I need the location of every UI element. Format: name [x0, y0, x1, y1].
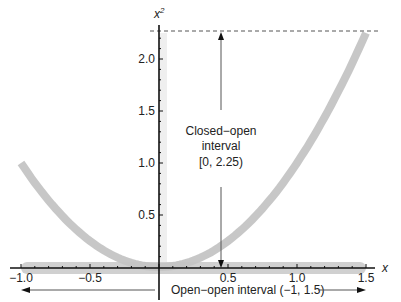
arrow-right-icon	[357, 287, 366, 293]
range-band	[159, 33, 167, 268]
arrow-up-icon	[218, 32, 224, 40]
x-tick-label: −0.5	[78, 271, 102, 285]
chart: −1.0−0.50.51.01.5 0.51.01.52.0 x x2 Clos…	[0, 0, 401, 302]
x-tick-label: 1.5	[358, 271, 375, 285]
y-tick-label: 0.5	[138, 208, 155, 222]
y-tick-label: 2.0	[138, 52, 155, 66]
x-tick-label: −1.0	[9, 271, 33, 285]
arrow-left-icon	[21, 287, 30, 293]
range-annotation-line3: [0, 2.25)	[199, 155, 243, 169]
parabola-curve	[21, 33, 366, 267]
y-tick-label: 1.5	[138, 104, 155, 118]
range-annotation-line1: Closed−open	[185, 124, 256, 138]
range-annotation-line2: interval	[202, 139, 241, 153]
x-axis-label: x	[381, 261, 389, 275]
y-tick-label: 1.0	[138, 156, 155, 170]
domain-annotation: Open−open interval (−1, 1.5)	[171, 283, 324, 297]
y-axis-label: x2	[153, 6, 165, 21]
